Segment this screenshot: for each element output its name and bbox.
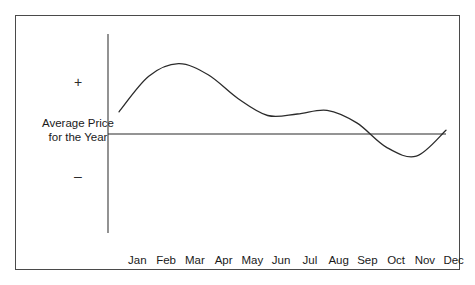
month-tick-label: Nov: [411, 252, 440, 270]
x-axis-month-labels: JanFebMarAprMayJunJulAugSepOctNovDec: [123, 252, 468, 270]
month-tick-label: Oct: [382, 252, 411, 270]
month-tick-label: Sep: [353, 252, 382, 270]
month-tick-label: Dec: [439, 252, 468, 270]
month-tick-label: Jul: [296, 252, 325, 270]
figure-frame: + Average Price for the Year – JanFebMar…: [15, 15, 460, 270]
plot-area: [16, 16, 461, 271]
month-tick-label: Jan: [123, 252, 152, 270]
month-tick-label: Aug: [324, 252, 353, 270]
chart-screenshot: + Average Price for the Year – JanFebMar…: [0, 0, 475, 285]
price-curve: [119, 64, 446, 157]
month-tick-label: Mar: [181, 252, 210, 270]
month-tick-label: Feb: [152, 252, 181, 270]
month-tick-label: Apr: [209, 252, 238, 270]
month-tick-label: May: [238, 252, 267, 270]
month-tick-label: Jun: [267, 252, 296, 270]
line-chart-svg: [16, 16, 461, 271]
